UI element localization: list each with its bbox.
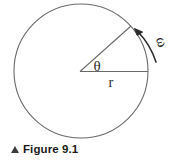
triangle-up-icon [11, 146, 19, 153]
figure-caption-text: Figure 9.1 [23, 144, 78, 156]
radius-angled-line [80, 26, 131, 72]
angular-velocity-arrow [139, 33, 157, 63]
radius-label: r [109, 74, 114, 90]
figure-container: θ r ω Figure 9.1 [0, 0, 175, 162]
theta-label: θ [93, 58, 100, 74]
circular-motion-diagram: θ r ω [0, 0, 175, 162]
omega-label-group: ω [153, 35, 171, 49]
figure-caption: Figure 9.1 [11, 144, 78, 156]
angular-velocity-arrowhead-icon [135, 29, 143, 36]
omega-label: ω [153, 35, 171, 49]
